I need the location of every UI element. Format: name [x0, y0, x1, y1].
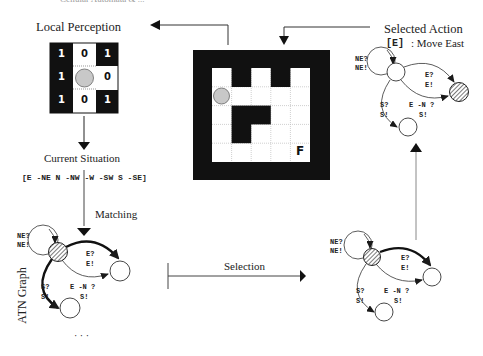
current-situation-title: Current Situation [44, 152, 120, 164]
edge-label-south-action: S! [356, 297, 364, 306]
cell-value: 0 [73, 94, 96, 105]
edge-label-south-query: S? [41, 283, 49, 292]
selected-action-title: Selected Action [384, 22, 463, 37]
edge-label-loop-query: NE? [355, 55, 368, 64]
edge-label-east-query: E? [86, 250, 94, 259]
cell-value: 0 [96, 71, 119, 82]
edge-label-en-query: E -N ? [70, 283, 95, 292]
edge-label-south-query: S? [380, 101, 388, 110]
edge-label-en-action: S! [394, 297, 402, 306]
selected-action-code: [E] [386, 38, 404, 49]
finish-marker: F [296, 144, 304, 158]
edge-label-loop-query: NE? [17, 232, 30, 241]
matching-label: Matching [95, 208, 137, 220]
edge-label-east-action: E! [401, 264, 409, 273]
edge-label-east-query: E? [425, 71, 433, 80]
atn-graph-label: ATN Graph [15, 267, 30, 323]
edge-label-loop-action: NE! [355, 64, 368, 73]
cell-value: 1 [50, 94, 73, 105]
edge-label-en-action: S! [80, 293, 88, 302]
local-perception-title: Local Perception [36, 20, 121, 35]
edge-label-loop-action: NE! [330, 247, 343, 256]
atn-graph-selected [367, 47, 469, 136]
cell-value: 0 [73, 48, 96, 59]
edge-label-en-query: E -N ? [384, 287, 409, 296]
edge-label-en-action: S! [419, 111, 427, 120]
ellipsis: · · · [74, 330, 89, 341]
environment-agent-icon [214, 88, 230, 104]
edge-label-en-query: E -N ? [409, 101, 434, 110]
edge-label-east-action: E! [425, 81, 433, 90]
selected-action-description: : Move East [411, 37, 464, 49]
atn-graph-candidate [344, 231, 441, 321]
agent-icon [76, 69, 94, 87]
edge-label-south-query: S? [356, 287, 364, 296]
selection-label: Selection [224, 260, 265, 272]
edge-label-east-action: E! [86, 260, 94, 269]
cell-value: 1 [50, 71, 73, 82]
edge-label-east-query: E? [401, 254, 409, 263]
edge-label-loop-action: NE! [17, 241, 30, 250]
environment-grid [193, 50, 330, 180]
diagram-canvas: Cellular Automata & ... [0, 0, 483, 356]
cell-value: 1 [50, 48, 73, 59]
cell-value: 1 [96, 94, 119, 105]
situation-vector: [E -NE N -NW -W -SW S -SE] [22, 173, 147, 182]
atn-graph-left [28, 225, 130, 318]
edge-label-south-action: S! [380, 111, 388, 120]
edge-label-south-action: S! [41, 293, 49, 302]
edge-label-loop-query: NE? [330, 238, 343, 247]
cell-value: 1 [96, 48, 119, 59]
